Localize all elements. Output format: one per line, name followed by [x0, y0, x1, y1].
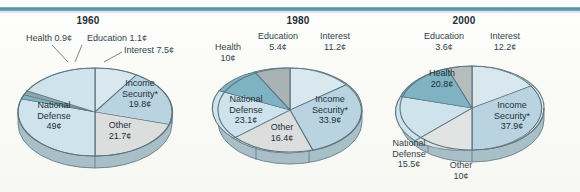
- label-health-2000: Health 20.8¢: [416, 68, 468, 89]
- pie-chart-1980: 1980 Education 5.4¢ Interest 11.2¢ Healt…: [196, 0, 386, 192]
- label-income-security-1980: Income Security* 33.9¢: [300, 94, 360, 126]
- leader-health-1960: [52, 45, 68, 62]
- label-national-defense-1960: National Defense 49¢: [26, 100, 82, 132]
- label-other-2000: Other 10¢: [438, 160, 484, 181]
- leader-education-1960: [75, 45, 82, 62]
- label-income-security-1960: Income Security* 19.8¢: [110, 78, 170, 110]
- figure-canvas: 1960 Health 0.9¢ Education 1.1¢ Interest…: [0, 0, 580, 192]
- label-income-security-2000: Income Security* 37.9¢: [482, 100, 542, 132]
- leader-interest-1960: [104, 52, 122, 62]
- label-other-1960: Other 21.7¢: [95, 120, 145, 141]
- pie-chart-2000: 2000 Education 3.6¢ Interest 12.2¢: [386, 0, 580, 192]
- label-national-defense-2000: National Defense 15.5¢: [382, 138, 436, 170]
- pie-chart-1960: 1960 Health 0.9¢ Education 1.1¢ Interest…: [0, 0, 196, 192]
- label-national-defense-1980: National Defense 23.1¢: [218, 94, 274, 126]
